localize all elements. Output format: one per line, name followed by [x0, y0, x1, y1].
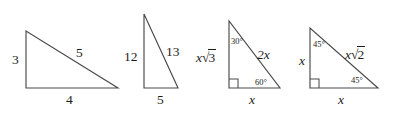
label-triangle2-horizontal-leg: 5	[157, 93, 164, 107]
label-triangle4-horizontal-leg: x	[338, 93, 344, 107]
triangle-3-4-5-outline	[26, 31, 118, 88]
label-triangle4-bottom-right-angle: 45°	[351, 76, 363, 85]
radical-sign-icon-triangle-4: √2	[351, 48, 365, 62]
right-angle-marker-icon-triangle-4	[310, 79, 319, 88]
label-triangle3-vertical-leg: x√3	[196, 51, 216, 65]
right-angle-marker-icon-triangle-3	[229, 79, 238, 88]
triangle-45-45-90-outline	[310, 28, 378, 88]
label-triangle2-vertical-leg: 12	[124, 50, 138, 64]
label-triangle4-vertical-leg: x	[299, 54, 305, 68]
label-triangle3-top-angle: 30°	[231, 37, 243, 46]
label-triangle3-bottom-right-angle: 60°	[255, 78, 267, 87]
label-triangle2-hypotenuse: 13	[166, 45, 180, 59]
label-triangle1-horizontal-leg: 4	[66, 93, 73, 107]
label-triangle4-hypotenuse: x√2	[345, 48, 365, 62]
geometry-figure-canvas: 3 4 5 12 5 13 x√3 x 2x 30° 60° x x x√2 4…	[0, 0, 396, 117]
label-triangle3-hypotenuse: 2x	[257, 48, 270, 62]
label-triangle1-vertical-leg: 3	[12, 53, 19, 67]
label-triangle3-horizontal-leg: x	[249, 93, 255, 107]
radical-sign-icon-triangle-3: √3	[202, 51, 216, 65]
label-triangle3-vertical-leg-radicand: 3	[208, 49, 216, 65]
label-triangle1-hypotenuse: 5	[76, 46, 83, 60]
label-triangle4-top-angle: 45°	[313, 40, 325, 49]
label-triangle4-hypotenuse-radicand: 2	[357, 46, 365, 62]
